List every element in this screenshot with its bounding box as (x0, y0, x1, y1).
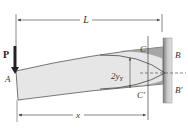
point-a-label: A (4, 74, 11, 84)
cantilever-beam-diagram: L 2yY P A C C′ B B′ x (0, 0, 188, 130)
fixed-support-wall (163, 38, 172, 103)
length-dimension: L (16, 14, 162, 46)
point-b-prime-label: B′ (175, 85, 183, 95)
point-c-prime-label: C′ (137, 90, 146, 100)
load-label: P (3, 49, 9, 60)
length-label: L (82, 14, 89, 25)
point-b-label: B (175, 50, 181, 60)
two-yY-text: 2y (111, 71, 120, 81)
x-label: x (75, 110, 80, 120)
x-dimension: x (17, 100, 146, 122)
load-arrow-p: P (3, 46, 19, 74)
point-c-label: C (140, 44, 147, 54)
